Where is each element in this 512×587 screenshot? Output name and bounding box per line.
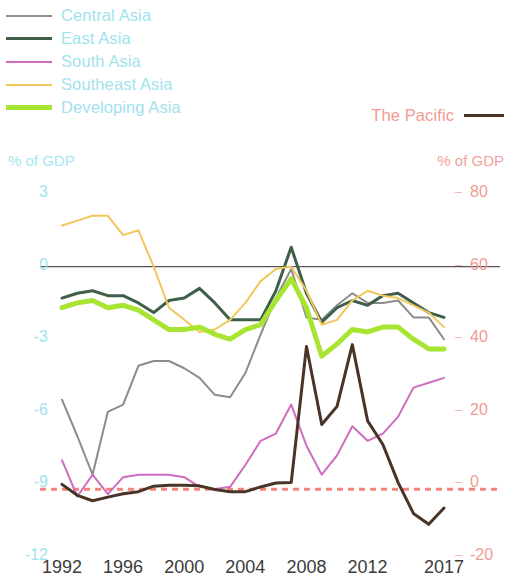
series-line-the-pacific (62, 345, 444, 525)
series-line-southeast-asia (62, 216, 444, 332)
series-line-east-asia (62, 247, 444, 322)
y-axis-right-tick-4: 0 (470, 473, 504, 491)
y-axis-left-tick-4: -9 (10, 473, 48, 491)
series-line-south-asia (62, 378, 444, 497)
x-axis-tick-2: 2000 (152, 557, 216, 578)
series-line-central-asia (62, 269, 444, 475)
y-axis-left-tick-1: 0 (10, 256, 48, 274)
plot-area (0, 0, 512, 587)
y-axis-left-tick-2: -3 (10, 328, 48, 346)
y-axis-right-tick-2: 40 (470, 328, 504, 346)
y-axis-right-tickmark-0: – (455, 184, 462, 199)
y-axis-left-tick-0: 3 (10, 183, 48, 201)
y-axis-right-tickmark-1: – (455, 257, 462, 272)
x-axis-tick-0: 1992 (30, 557, 94, 578)
x-axis-tick-4: 2008 (274, 557, 338, 578)
y-axis-right-tick-1: 60 (470, 256, 504, 274)
y-axis-right-tickmark-2: – (455, 329, 462, 344)
y-axis-right-tickmark-4: – (455, 474, 462, 489)
x-axis-tick-5: 2012 (336, 557, 400, 578)
y-axis-right-tick-0: 80 (470, 183, 504, 201)
y-axis-right-tick-3: 20 (470, 401, 504, 419)
y-axis-left-tick-3: -6 (10, 401, 48, 419)
y-axis-right-tickmark-3: – (455, 402, 462, 417)
x-axis-tick-1: 1996 (91, 557, 155, 578)
x-axis-tick-3: 2004 (213, 557, 277, 578)
chart-container: Central Asia East Asia South Asia Southe… (0, 0, 512, 587)
x-axis-tick-6: 2017 (412, 557, 476, 578)
